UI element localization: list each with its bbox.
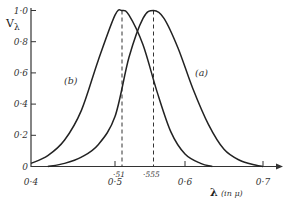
- y-tick-label: 0·4: [14, 99, 29, 109]
- y-tick-label: 1·0: [14, 6, 29, 16]
- luminosity-chart: 00·20·40·60·81·0 0·40·50·60·7 ·51 ·555 (…: [0, 0, 283, 203]
- x-tick-label: 0·7: [256, 177, 271, 187]
- curve-a-label: (a): [195, 67, 208, 78]
- x-tick-label: 0·6: [178, 177, 193, 187]
- x-axis-title: λ: [210, 186, 218, 199]
- y-tick-label: 0·6: [14, 68, 29, 78]
- y-axis-title: Vλ: [5, 17, 20, 32]
- y-tick-label: 0·8: [14, 37, 29, 47]
- x-axis-unit: (in μ): [221, 189, 243, 198]
- curve-b-label: (b): [64, 75, 78, 86]
- y-tick-label: 0: [22, 162, 28, 172]
- x-axis-arrow-icon: [276, 164, 283, 170]
- y-tick-label: 0·2: [14, 130, 29, 140]
- x-tick-label: 0·4: [24, 177, 39, 187]
- y-axis-title-sub: λ: [14, 22, 20, 32]
- peak-b-label: ·51: [113, 170, 125, 179]
- peak-a-label: ·555: [143, 170, 160, 179]
